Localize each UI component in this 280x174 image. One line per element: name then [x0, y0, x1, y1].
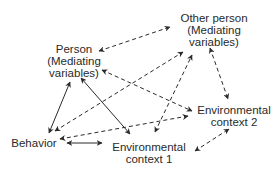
- node-label: context 1: [107, 153, 191, 165]
- edge-person-env1: [81, 78, 130, 134]
- node-label: (Mediating: [167, 24, 261, 36]
- node-label: Person: [46, 43, 102, 55]
- node-label: Other person: [167, 12, 261, 24]
- edge-env1-env2: [195, 129, 229, 151]
- node-label: variables): [167, 36, 261, 48]
- node-label: Behavior: [8, 137, 60, 149]
- node-label: variables): [46, 67, 102, 79]
- node-other-person: Other person (Mediating variables): [167, 12, 261, 48]
- node-label: (Mediating: [46, 55, 102, 67]
- edge-behavior-person: [49, 82, 70, 133]
- node-label: Environmental: [107, 141, 191, 153]
- edge-otherperson-env2: [210, 48, 228, 99]
- edge-person-env2: [102, 70, 192, 111]
- node-environmental-context-2: Environmental context 2: [192, 104, 276, 128]
- node-environmental-context-1: Environmental context 1: [107, 141, 191, 165]
- node-label: context 2: [192, 116, 276, 128]
- edge-env1-otherperson: [155, 55, 192, 132]
- node-person: Person (Mediating variables): [46, 43, 102, 79]
- node-behavior: Behavior: [8, 137, 60, 149]
- edge-behavior-env2: [60, 116, 188, 139]
- node-label: Environmental: [192, 104, 276, 116]
- edge-person-otherperson: [99, 27, 170, 51]
